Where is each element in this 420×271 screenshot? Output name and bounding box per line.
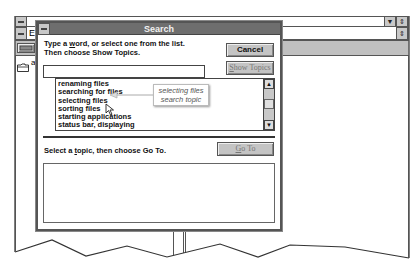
dialog-title-bar[interactable]: Search xyxy=(38,23,280,35)
dialog-title: Search xyxy=(144,24,174,34)
results-list[interactable] xyxy=(43,163,275,223)
arrow-down-icon: ▼ xyxy=(266,122,272,128)
scroll-thumb[interactable] xyxy=(264,99,274,109)
instruction-line-1: Type a word, or select one from the list… xyxy=(44,39,185,48)
dialog-separator xyxy=(43,136,275,138)
scroll-up-icon[interactable]: ▲ xyxy=(264,79,274,89)
cancel-button[interactable]: Cancel xyxy=(226,43,274,57)
callout-annotation: selecting files search topic xyxy=(153,84,209,106)
search-dialog: Search Type a word, or select one from t… xyxy=(36,21,282,231)
mouse-pointer-icon xyxy=(105,103,115,116)
go-to-button[interactable]: Go To xyxy=(217,142,274,156)
list-item[interactable]: status bar, displaying xyxy=(56,121,135,129)
search-input[interactable] xyxy=(43,65,205,78)
select-topic-label: Select a topic, then choose Go To. xyxy=(44,146,166,155)
dialog-control-menu-icon[interactable] xyxy=(38,23,50,35)
show-topics-button[interactable]: Show Topics xyxy=(226,61,274,75)
callout-line-2: search topic xyxy=(154,95,208,104)
callout-line-1: selecting files xyxy=(154,86,208,95)
topic-list-scrollbar[interactable]: ▲ ▼ xyxy=(263,79,274,130)
arrow-up-icon: ▲ xyxy=(266,81,272,87)
instruction-line-2: Then choose Show Topics. xyxy=(44,48,140,57)
scroll-down-icon[interactable]: ▼ xyxy=(264,120,274,130)
